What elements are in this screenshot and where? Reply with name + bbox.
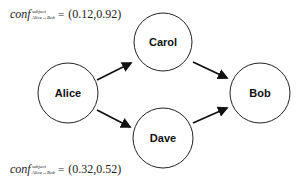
node-label-alice: Alice	[55, 87, 81, 99]
formula-bottom-scripts: subjectAlice→Bob	[32, 164, 55, 175]
formula-bottom-base: conf	[10, 162, 31, 176]
formula-bottom: confsubjectAlice→Bob= (0.32,0.52)	[10, 159, 121, 177]
formula-bottom-subscript: Alice→Bob	[32, 170, 55, 175]
node-alice: Alice	[38, 63, 98, 123]
edge-alice-dave	[97, 110, 130, 127]
formula-top-subscript: Alice→Bob	[32, 15, 55, 20]
formula-top-equals: =	[58, 8, 64, 20]
formula-top-scripts: subjectAlice→Bob	[32, 9, 55, 20]
formula-top: confsubjectAlice→Bob= (0.12,0.92)	[10, 4, 121, 22]
node-bob: Bob	[230, 63, 290, 123]
formula-top-base: conf	[10, 7, 31, 21]
edge-alice-carol	[97, 63, 131, 80]
node-carol: Carol	[134, 13, 192, 71]
formula-bottom-equals: =	[58, 163, 64, 175]
formula-bottom-value: (0.32,0.52)	[68, 162, 121, 176]
formula-top-superscript: subject	[32, 9, 55, 14]
formula-top-value: (0.12,0.92)	[68, 7, 121, 21]
node-label-dave: Dave	[150, 132, 176, 144]
node-dave: Dave	[133, 108, 193, 168]
node-label-bob: Bob	[249, 87, 271, 99]
formula-bottom-superscript: subject	[32, 164, 55, 169]
edge-dave-bob	[193, 108, 227, 123]
node-label-carol: Carol	[149, 36, 177, 48]
edge-carol-bob	[193, 62, 227, 78]
